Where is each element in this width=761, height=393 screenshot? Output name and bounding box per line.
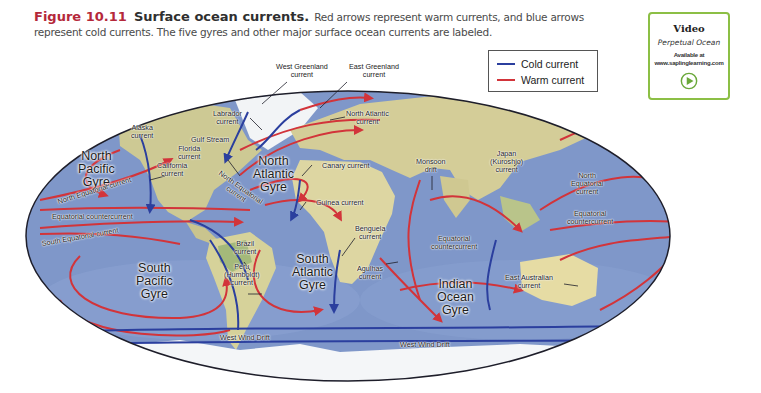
label-equatorial-countercurrent-west: Equatorial countercurrent [52,213,133,221]
label-equatorial-countercurrent-east: Equatorialcountercurrent [567,210,613,226]
label-east-greenland-current: East Greenlandcurrent [349,63,399,79]
label-guinea-current: Guinea current [316,199,364,207]
legend-label-warm: Warm current [521,74,584,86]
gyre-south-atlantic: SouthAtlanticGyre [292,253,333,292]
cold-current-swatch-icon [497,63,515,65]
map-legend: Cold current Warm current [488,50,598,92]
label-canary-current: Canary current [322,162,370,170]
label-alaska-current: Alaskacurrent [131,124,153,140]
gyre-south-pacific: SouthPacificGyre [136,262,173,301]
label-north-atlantic-current: North Atlanticcurrent [346,110,389,126]
label-west-wind-drift-2: West Wind Drift [400,341,450,349]
label-gulf-stream: Gulf Stream [191,136,229,144]
label-north-equatorial-current-east: NorthEquatorialcurrent [571,172,603,196]
label-west-wind-drift-1: West Wind Drift [220,334,270,342]
legend-label-cold: Cold current [521,58,578,70]
label-agulhas-current: Agulhascurrent [357,265,383,281]
label-labrador-current: Labradorcurrent [213,110,242,126]
gyre-north-atlantic: NorthAtlanticGyre [253,155,294,194]
label-benguela-current: Benguelacurrent [355,225,385,241]
warm-current-swatch-icon [497,79,515,81]
legend-item-warm: Warm current [497,74,584,86]
ocean-currents-map [0,0,761,393]
label-monsoon-drift: Monsoondrift [416,158,446,174]
legend-item-cold: Cold current [497,58,578,70]
label-california-current: Californiacurrent [157,162,187,178]
label-florida-current: Floridacurrent [178,145,200,161]
label-east-australian-current: East Australiancurrent [505,274,553,290]
label-peru-humboldt-current: Peru(Humboldt)current [224,263,260,287]
gyre-indian-ocean: IndianOceanGyre [437,278,474,317]
label-west-greenland-current: West Greenlandcurrent [276,63,328,79]
world-map: Cold current Warm current NorthPacificGy… [0,0,761,393]
label-equatorial-countercurrent-indian: Equatorialcountercurrent [431,235,477,251]
label-japan-kuroshio-current: Japan(Kuroshio)current [490,150,523,174]
label-brazil-current: Brazilcurrent [234,240,256,256]
